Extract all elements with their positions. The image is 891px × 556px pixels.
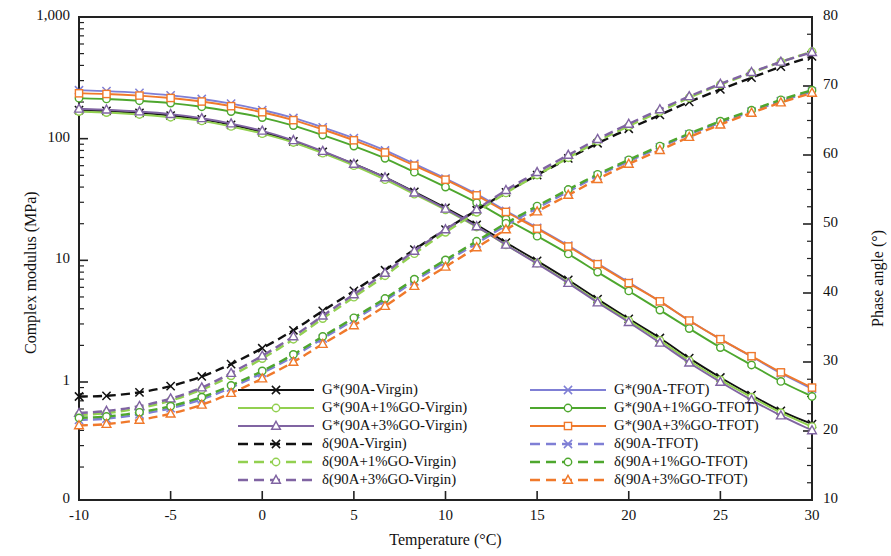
chart-legend: G*(90A-Virgin)G*(90A+1%GO-Virgin)G*(90A+…	[236, 381, 796, 491]
ytick-label-0: 1,000	[36, 7, 70, 24]
legend-item-column1-1[interactable]: G*(90A+1%GO-Virgin)	[236, 399, 526, 417]
legend-label: G*(90A+3%GO-Virgin)	[322, 416, 467, 434]
legend-item-column1-5[interactable]: δ(90A+3%GO-Virgin)	[236, 471, 526, 489]
xtick-label-2: 0	[234, 507, 290, 524]
ytick-label-1: 100	[48, 129, 71, 146]
xtick-label-1: -5	[143, 507, 199, 524]
legend-swatch-x-icon	[528, 435, 608, 453]
ytick-label-2: 10	[55, 250, 70, 267]
legend-item-column2-1[interactable]: G*(90A+1%GO-TFOT)	[528, 399, 818, 417]
legend-swatch-circle-icon	[528, 453, 608, 471]
legend-label: δ(90A+3%GO-Virgin)	[322, 470, 456, 488]
legend-swatch-x-icon	[528, 381, 608, 399]
legend-label: δ(90A+3%GO-TFOT)	[614, 470, 748, 488]
legend-swatch-x-icon	[236, 435, 316, 453]
ytick-label-4: 0	[63, 490, 71, 507]
legend-label: G*(90A+1%GO-Virgin)	[322, 398, 467, 416]
legend-item-column2-4[interactable]: δ(90A+1%GO-TFOT)	[528, 453, 818, 471]
y2-axis-title: Phase angle (°)	[869, 229, 887, 326]
series-5	[75, 90, 815, 391]
legend-item-column1-0[interactable]: G*(90A-Virgin)	[236, 381, 526, 399]
x-axis-title: Temperature (°C)	[0, 531, 891, 549]
y2tick-label-1: 20	[823, 421, 838, 438]
series-3	[75, 86, 816, 393]
xtick-label-4: 10	[418, 507, 474, 524]
ytick-label-3: 1	[63, 372, 71, 389]
series-markers-3	[75, 86, 816, 393]
legend-label: δ(90A+1%GO-TFOT)	[614, 452, 748, 470]
legend-label: G*(90A-Virgin)	[322, 380, 418, 398]
xtick-label-7: 25	[692, 507, 748, 524]
legend-item-column2-5[interactable]: δ(90A+3%GO-TFOT)	[528, 471, 818, 489]
y2tick-label-0: 10	[823, 490, 838, 507]
y2tick-label-5: 60	[823, 145, 838, 162]
series-markers-5	[75, 90, 815, 391]
legend-item-column1-3[interactable]: δ(90A-Virgin)	[236, 435, 526, 453]
y-axis-title: Complex modulus (MPa)	[22, 191, 40, 354]
series-group	[75, 47, 817, 433]
legend-swatch-circle-icon	[528, 399, 608, 417]
y2tick-label-2: 30	[823, 352, 838, 369]
legend-item-column2-3[interactable]: δ(90A-TFOT)	[528, 435, 818, 453]
legend-swatch-square-icon	[528, 417, 608, 435]
y2tick-label-6: 70	[823, 76, 838, 93]
xtick-label-6: 20	[601, 507, 657, 524]
y2tick-label-3: 40	[823, 283, 838, 300]
legend-label: δ(90A-Virgin)	[322, 434, 407, 452]
xtick-label-8: 30	[784, 507, 840, 524]
legend-item-column1-2[interactable]: G*(90A+3%GO-Virgin)	[236, 417, 526, 435]
legend-swatch-circle-icon	[236, 453, 316, 471]
legend-swatch-triangle-icon	[236, 417, 316, 435]
series-markers-4	[75, 95, 815, 401]
legend-item-column2-0[interactable]: G*(90A-TFOT)	[528, 381, 818, 399]
legend-item-column1-4[interactable]: δ(90A+1%GO-Virgin)	[236, 453, 526, 471]
legend-label: G*(90A-TFOT)	[614, 380, 709, 398]
y2tick-label-4: 50	[823, 214, 838, 231]
axis-ticks-left	[79, 17, 88, 467]
legend-swatch-circle-icon	[236, 399, 316, 417]
legend-swatch-triangle-icon	[528, 471, 608, 489]
y2tick-label-7: 80	[823, 7, 838, 24]
legend-swatch-x-icon	[236, 381, 316, 399]
xtick-label-5: 15	[509, 507, 565, 524]
legend-label: δ(90A+1%GO-Virgin)	[322, 452, 456, 470]
series-8	[75, 47, 817, 416]
legend-label: δ(90A-TFOT)	[614, 434, 698, 452]
xtick-label-0: -10	[51, 507, 107, 524]
legend-item-column2-2[interactable]: G*(90A+3%GO-TFOT)	[528, 417, 818, 435]
legend-label: G*(90A+3%GO-TFOT)	[614, 416, 759, 434]
axis-ticks-bottom	[79, 491, 812, 500]
xtick-label-3: 5	[326, 507, 382, 524]
series-markers-8	[75, 47, 817, 416]
series-4	[75, 95, 815, 401]
legend-label: G*(90A+1%GO-TFOT)	[614, 398, 759, 416]
legend-swatch-triangle-icon	[236, 471, 316, 489]
